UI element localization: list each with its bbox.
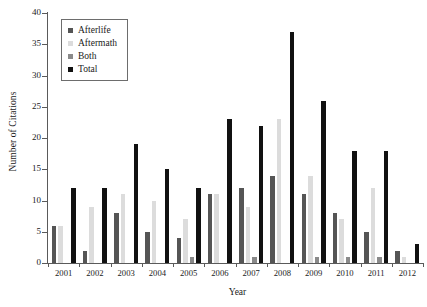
y-tick-label: 20 [32,131,41,144]
legend-swatch-icon [68,54,73,59]
bar-total-2006 [227,119,232,263]
x-tick-mark [329,263,330,267]
y-tick-mark [42,263,47,264]
bar-total-2003 [134,144,139,263]
bar-afterlife-2003 [114,213,119,263]
x-tick-mark [392,263,393,267]
bar-afterlife-2009 [302,194,307,263]
bar-afterlife-2004 [145,232,150,263]
y-tick-mark [42,44,47,45]
legend-item-total: Total [68,63,117,76]
x-tick-mark [111,263,112,267]
legend-item-both: Both [68,50,117,63]
x-tick-label: 2011 [361,267,392,279]
x-tick-label: 2002 [79,267,110,279]
bar-aftermath-2003 [121,194,126,263]
bar-afterlife-2010 [333,213,338,263]
x-tick-label: 2005 [173,267,204,279]
y-tick-label: 15 [32,162,41,175]
bar-afterlife-2008 [270,176,275,264]
bar-total-2008 [290,32,295,263]
bar-aftermath-2002 [89,207,94,263]
x-tick-label: 2012 [392,267,423,279]
bar-total-2012 [415,244,420,263]
y-tick-mark [42,169,47,170]
x-tick-label: 2010 [329,267,360,279]
x-tick-label: 2008 [267,267,298,279]
bar-total-2007 [259,126,264,264]
bar-total-2010 [352,151,357,264]
legend-label: Afterlife [78,24,111,37]
legend-item-afterlife: Afterlife [68,24,117,37]
x-tick-mark [142,263,143,267]
x-tick-label: 2009 [298,267,329,279]
legend-swatch-icon [68,28,73,33]
bar-both-2011 [377,257,382,263]
y-tick-mark [42,13,47,14]
y-tick-mark [42,138,47,139]
bar-total-2001 [71,188,76,263]
bar-afterlife-2001 [52,226,57,264]
x-tick-mark [79,263,80,267]
chart-legend: AfterlifeAftermathBothTotal [61,19,128,81]
y-tick-mark [42,76,47,77]
y-tick-label: 35 [32,37,41,50]
legend-swatch-icon [68,67,73,72]
legend-swatch-icon [68,41,73,46]
bar-both-2009 [315,257,320,263]
bar-total-2009 [321,101,326,264]
legend-label: Aftermath [78,37,117,50]
x-tick-mark [236,263,237,267]
y-tick-mark [42,107,47,108]
citations-bar-chart: Number of Citations 0510152025303540 200… [0,0,427,307]
bar-aftermath-2007 [246,207,251,263]
bar-aftermath-2012 [402,257,407,263]
x-tick-label: 2001 [48,267,79,279]
y-tick-mark [42,201,47,202]
y-axis-title: Number of Citations [6,0,20,263]
y-tick-label: 5 [37,225,42,238]
bar-both-2007 [252,257,257,263]
bar-aftermath-2009 [308,176,313,264]
bar-afterlife-2005 [177,238,182,263]
y-tick-label: 25 [32,100,41,113]
bar-afterlife-2012 [395,251,400,264]
x-tick-mark [423,263,424,267]
legend-item-aftermath: Aftermath [68,37,117,50]
x-tick-mark [267,263,268,267]
y-tick-label: 0 [37,256,42,269]
x-tick-mark [204,263,205,267]
bar-aftermath-2005 [183,219,188,263]
bar-aftermath-2004 [152,201,157,264]
bar-afterlife-2002 [83,251,88,264]
bar-total-2005 [196,188,201,263]
legend-label: Both [78,50,96,63]
x-tick-label: 2007 [236,267,267,279]
bar-total-2004 [165,169,170,263]
bar-total-2002 [102,188,107,263]
x-tick-label: 2004 [142,267,173,279]
bar-afterlife-2011 [364,232,369,263]
bar-aftermath-2011 [371,188,376,263]
x-tick-mark [173,263,174,267]
x-tick-label: 2003 [111,267,142,279]
bar-both-2010 [346,257,351,263]
x-tick-label: 2006 [204,267,235,279]
x-tick-mark [298,263,299,267]
bar-afterlife-2007 [239,188,244,263]
bar-aftermath-2008 [277,119,282,263]
bar-afterlife-2006 [208,194,213,263]
bar-total-2011 [384,151,389,264]
legend-label: Total [78,63,97,76]
x-tick-mark [361,263,362,267]
x-tick-mark [48,263,49,267]
y-tick-label: 10 [32,194,41,207]
bar-both-2005 [190,257,195,263]
y-tick-label: 30 [32,69,41,82]
x-axis-title: Year [48,286,427,298]
bar-aftermath-2010 [339,219,344,263]
y-tick-label: 40 [32,6,41,19]
y-tick-mark [42,232,47,233]
bar-aftermath-2001 [58,226,63,264]
bar-aftermath-2006 [214,194,219,263]
